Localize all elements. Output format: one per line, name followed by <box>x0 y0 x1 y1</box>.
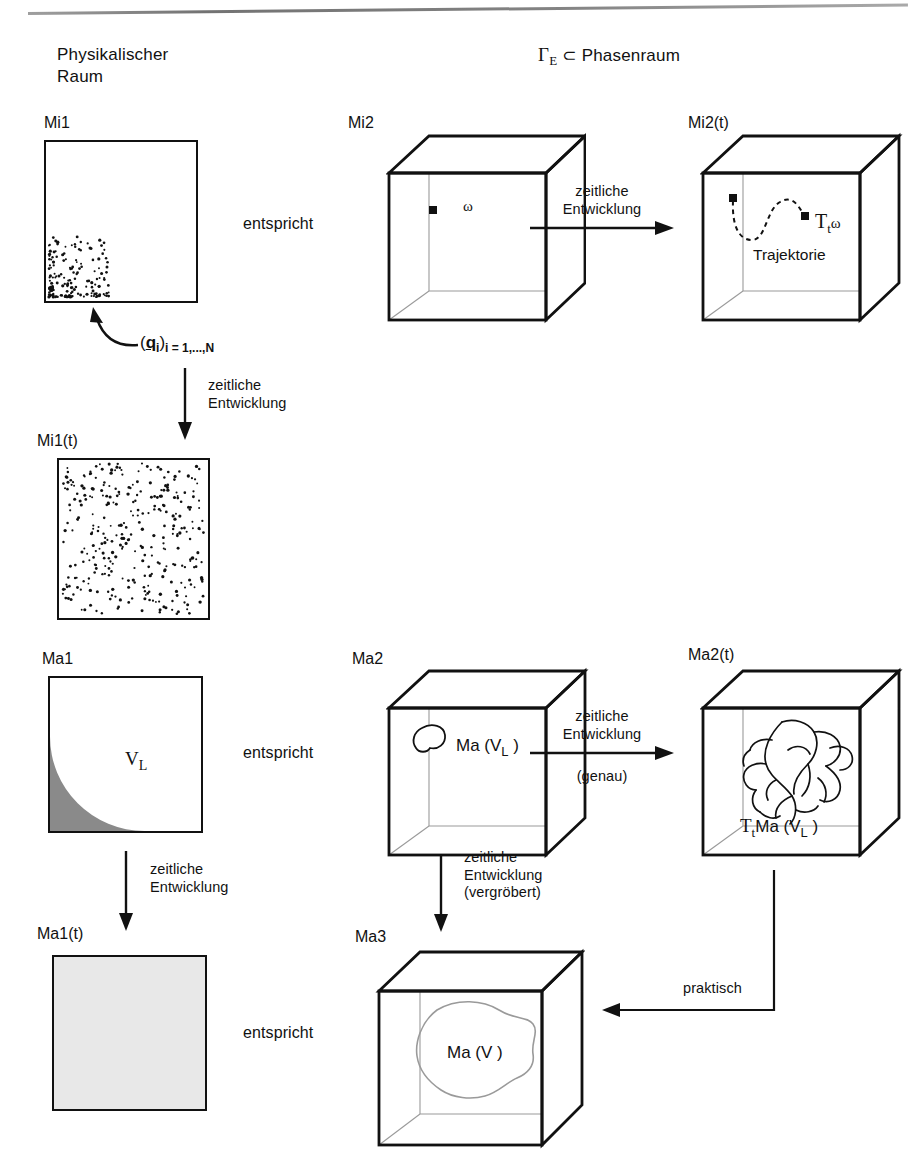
ma3-label-post: ) <box>492 1043 502 1062</box>
header-right: ΓE ⊂ Phasenraum <box>538 44 680 72</box>
header-left-line2: Raum <box>57 66 168 88</box>
mi2t-end-label: Ttω <box>815 210 841 237</box>
header-right-rest: ⊂ Phasenraum <box>562 46 680 65</box>
label-arrow-mi2-mi2t: zeitliche Entwicklung <box>527 183 677 218</box>
label-vergroebert: (vergröbert) <box>464 884 542 902</box>
ma2t-filament-structure <box>743 720 852 824</box>
arrow-ma1-entwicklung: Entwicklung <box>150 879 228 897</box>
ma2t-L-sub: L <box>801 825 808 840</box>
label-arrow-mi1-mi1t: zeitliche Entwicklung <box>208 377 286 412</box>
panel-title-ma2: Ma2 <box>352 650 383 668</box>
ma3-label-pre: Ma (V <box>447 1043 492 1062</box>
mi2-omega-label: ω <box>463 198 473 215</box>
mi1t-dot-scatter <box>59 460 208 618</box>
qi-q: q <box>146 333 156 352</box>
panel-ma1t <box>52 955 207 1111</box>
arrow-ma3-entwicklung: Entwicklung <box>464 867 542 885</box>
ma2-label-pre: Ma (V <box>456 736 501 755</box>
panel-title-mi2: Mi2 <box>348 114 374 132</box>
gamma-subscript: E <box>549 53 557 68</box>
arrow-mi1-zeitliche: zeitliche <box>208 377 286 395</box>
mi2t-start-point <box>729 194 737 202</box>
arrow-ma2-to-ma2t <box>530 744 678 766</box>
arrow-mi2-entwicklung: Entwicklung <box>527 201 677 219</box>
mi2t-trajectory-curve <box>733 200 804 240</box>
ma2t-label-post: ) <box>808 817 818 836</box>
panel-ma3: Ma (V ) <box>375 938 585 1157</box>
ma1-V: V <box>125 748 139 769</box>
arrow-mi1-entwicklung: Entwicklung <box>208 395 286 413</box>
label-genau: (genau) <box>527 768 677 786</box>
label-arrow-ma2-ma3: zeitliche Entwicklung (vergröbert) <box>464 849 542 902</box>
arrow-ma3-zeitliche: zeitliche <box>464 849 542 867</box>
top-rule <box>28 4 908 15</box>
mi2t-cube <box>700 128 905 328</box>
panel-title-mi1: Mi1 <box>44 114 70 132</box>
ma2-volume-blob <box>414 725 446 752</box>
arrow-mi2-to-mi2t <box>530 219 678 241</box>
ma2-label-sub: L <box>501 744 508 759</box>
panel-ma2t: TtMa (VL ) <box>700 660 905 869</box>
mi2t-omega: ω <box>831 215 841 231</box>
panel-mi2t: Ttω Trajektorie <box>700 128 905 332</box>
ma2t-blob-label: TtMa (VL ) <box>740 815 818 841</box>
ma2-blob-label: Ma (VL ) <box>456 736 519 759</box>
label-entspricht-1: entspricht <box>243 215 313 233</box>
arrow-mi1-to-mi1t <box>176 368 200 444</box>
panel-title-ma1t: Ma1(t) <box>37 925 83 943</box>
panel-mi1 <box>44 140 198 303</box>
label-entspricht-3: entspricht <box>243 1024 313 1042</box>
ma2t-T: T <box>740 815 752 836</box>
label-arrow-ma1-ma1t: zeitliche Entwicklung <box>150 861 228 896</box>
label-arrow-ma2-ma2t: zeitliche Entwicklung <box>527 708 677 743</box>
mi2t-T: T <box>815 210 827 232</box>
arrow-ma2-zeitliche: zeitliche <box>527 708 677 726</box>
qi-sub: i = 1,...,N <box>165 341 214 355</box>
arrow-praktisch <box>598 870 808 1030</box>
label-praktisch: praktisch <box>683 980 742 998</box>
arrow-ma2-entwicklung: Entwicklung <box>527 726 677 744</box>
mi2t-end-point <box>801 212 809 220</box>
mi2-state-point <box>429 206 437 214</box>
ma2-label-post: ) <box>509 736 519 755</box>
arrow-ma2-to-ma3 <box>432 856 456 936</box>
arrow-ma1-zeitliche: zeitliche <box>150 861 228 879</box>
panel-title-mi1t: Mi1(t) <box>37 432 78 450</box>
diagram-page: Physikalischer Raum ΓE ⊂ Phasenraum Mi1 … <box>0 0 921 1161</box>
mi2t-trajektorie-label: Trajektorie <box>753 246 826 264</box>
ma1-region-label: VL <box>125 748 147 774</box>
panel-title-ma1: Ma1 <box>42 650 73 668</box>
ma1-L-sub: L <box>139 758 148 773</box>
mi1-dot-scatter <box>46 142 196 301</box>
panel-mi1t <box>57 458 210 620</box>
label-entspricht-2: entspricht <box>243 744 313 762</box>
ma3-blob-label: Ma (V ) <box>447 1043 503 1063</box>
arrow-ma1-to-ma1t <box>117 851 141 935</box>
gamma-symbol: Γ <box>538 44 549 65</box>
ma2t-label-mid: Ma (V <box>755 817 800 836</box>
label-qi: (qi)i = 1,...,N <box>140 333 214 355</box>
arrow-mi2-zeitliche: zeitliche <box>527 183 677 201</box>
header-left-line1: Physikalischer <box>57 44 168 66</box>
header-left: Physikalischer Raum <box>57 44 168 88</box>
